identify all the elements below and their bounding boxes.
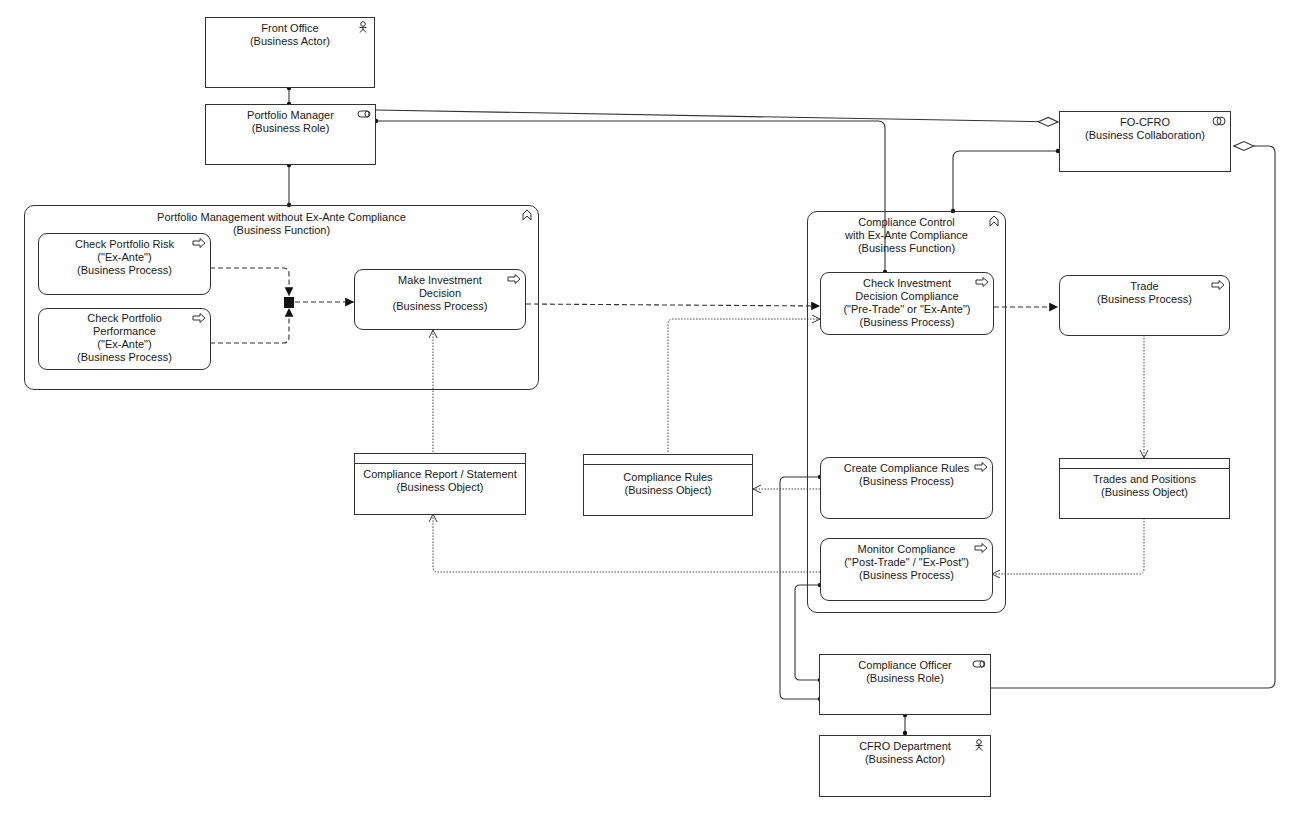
node-name: Portfolio Management without Ex-Ante Com…	[25, 206, 538, 224]
process-icon	[192, 237, 206, 249]
actor-icon	[356, 21, 370, 33]
node-name: Trades and Positions	[1060, 469, 1229, 486]
node-compliance-rules[interactable]: Compliance Rules (Business Object)	[583, 454, 753, 516]
node-type: (Business Process)	[1060, 293, 1229, 306]
node-name: Portfolio Manager	[206, 105, 375, 122]
function-icon	[987, 215, 1001, 227]
role-icon	[357, 108, 371, 120]
node-type: (Business Role)	[206, 122, 375, 135]
node-type: (Business Role)	[820, 672, 990, 685]
role-icon	[972, 658, 986, 670]
node-type: (Business Process)	[355, 300, 525, 313]
node-type: (Business Collaboration)	[1060, 129, 1230, 142]
aggregation-co-focfro	[990, 146, 1275, 688]
process-icon	[192, 312, 206, 324]
node-fo-cfro[interactable]: FO-CFRO (Business Collaboration)	[1059, 111, 1231, 172]
process-icon	[974, 461, 988, 473]
node-front-office[interactable]: Front Office (Business Actor)	[205, 17, 375, 88]
access-rules-check	[668, 319, 820, 452]
node-name: CFRO Department	[820, 736, 990, 753]
node-name: Trade	[1060, 276, 1229, 293]
process-icon	[975, 276, 989, 288]
node-compliance-report[interactable]: Compliance Report / Statement (Business …	[354, 453, 526, 515]
node-cfro-department[interactable]: CFRO Department (Business Actor)	[819, 735, 991, 797]
access-positions-monitor	[992, 518, 1144, 574]
object-header-band	[1060, 459, 1229, 469]
function-icon	[520, 209, 534, 221]
node-name: FO-CFRO	[1060, 112, 1230, 129]
node-name: Monitor Compliance ("Post-Trade" / "Ex-P…	[821, 539, 992, 569]
node-name: Make Investment Decision	[355, 270, 525, 300]
node-portfolio-manager[interactable]: Portfolio Manager (Business Role)	[205, 104, 376, 165]
process-icon	[507, 273, 521, 285]
collaboration-icon	[1212, 115, 1226, 127]
trigger-decision-check	[526, 304, 820, 306]
aggregation-pm-focfro	[376, 110, 1058, 122]
node-type: (Business Actor)	[820, 753, 990, 766]
node-compliance-officer[interactable]: Compliance Officer (Business Role)	[819, 654, 991, 715]
node-check-portfolio-risk[interactable]: Check Portfolio Risk ("Ex-Ante") (Busine…	[38, 233, 211, 295]
process-icon	[974, 542, 988, 554]
node-check-investment-decision-compliance[interactable]: Check Investment Decision Compliance ("P…	[820, 272, 994, 335]
node-trade[interactable]: Trade (Business Process)	[1059, 275, 1230, 336]
node-make-investment-decision[interactable]: Make Investment Decision (Business Proce…	[354, 269, 526, 330]
actor-icon	[972, 739, 986, 751]
node-type: (Business Object)	[584, 484, 752, 497]
node-type: (Business Function)	[808, 242, 1005, 255]
node-name: Check Portfolio Risk ("Ex-Ante")	[39, 234, 210, 264]
node-trades-and-positions[interactable]: Trades and Positions (Business Object)	[1059, 458, 1230, 519]
node-name: Check Investment Decision Compliance ("P…	[821, 273, 993, 316]
object-header-band	[584, 455, 752, 465]
node-type: (Business Process)	[821, 569, 992, 582]
node-name: Compliance Control with Ex-Ante Complian…	[808, 212, 1005, 242]
node-name: Check Portfolio Performance ("Ex-Ante")	[39, 309, 210, 351]
node-name: Compliance Rules	[584, 465, 752, 484]
node-name: Compliance Officer	[820, 655, 990, 672]
node-name: Front Office	[206, 18, 374, 35]
access-monitor-report	[433, 514, 820, 572]
node-type: (Business Object)	[1060, 486, 1229, 499]
node-create-compliance-rules[interactable]: Create Compliance Rules (Business Proces…	[820, 457, 993, 519]
assignment-focfro-cc	[953, 151, 1058, 211]
node-type: (Business Process)	[821, 316, 993, 329]
node-type: (Business Process)	[39, 351, 210, 364]
node-type: (Business Actor)	[206, 35, 374, 48]
node-type: (Business Process)	[39, 264, 210, 277]
node-monitor-compliance[interactable]: Monitor Compliance ("Post-Trade" / "Ex-P…	[820, 538, 993, 601]
node-check-portfolio-performance[interactable]: Check Portfolio Performance ("Ex-Ante") …	[38, 308, 211, 370]
node-type: (Business Process)	[821, 475, 992, 488]
node-name: Create Compliance Rules	[821, 458, 992, 475]
object-header-band	[355, 454, 525, 464]
node-type: (Business Object)	[355, 481, 525, 494]
diagram-canvas: Front Office (Business Actor) Portfolio …	[0, 0, 1300, 814]
node-name: Compliance Report / Statement	[355, 464, 525, 481]
process-icon	[1211, 279, 1225, 291]
